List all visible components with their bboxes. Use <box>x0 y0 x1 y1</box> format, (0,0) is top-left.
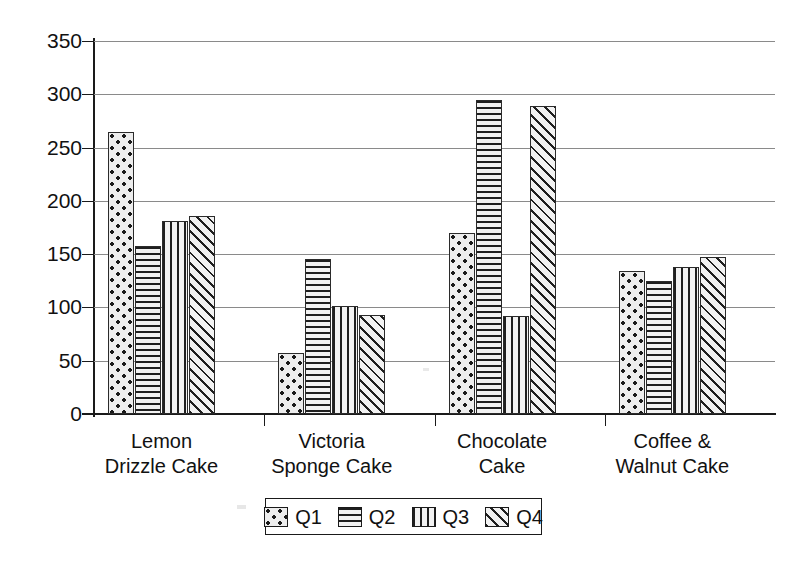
y-axis-tick-label: 250 <box>47 137 82 158</box>
bar <box>278 353 304 414</box>
legend-entry-q1[interactable]: Q1 <box>264 507 322 527</box>
x-axis-category-label-line: Chocolate <box>412 429 592 454</box>
bar <box>359 315 385 414</box>
legend-label: Q2 <box>369 507 396 527</box>
y-axis-tick-mark <box>82 254 94 255</box>
bar <box>189 216 215 414</box>
bar <box>476 100 502 414</box>
x-axis-category-label: Coffee &Walnut Cake <box>582 429 762 479</box>
bar <box>646 281 672 414</box>
x-axis-category-label-line: Cake <box>412 454 592 479</box>
bar <box>332 306 358 414</box>
y-axis-tick-mark <box>82 148 94 149</box>
legend-entry-q3[interactable]: Q3 <box>412 507 470 527</box>
bar <box>700 257 726 414</box>
y-axis-tick-mark <box>82 94 94 95</box>
bar <box>108 132 134 414</box>
legend-swatch-diag-icon <box>485 507 509 527</box>
gridline <box>94 41 775 42</box>
y-axis-tick-mark <box>82 307 94 308</box>
legend-label: Q3 <box>443 507 470 527</box>
y-axis-labels: 350300250200150100500 <box>14 0 82 578</box>
bar <box>619 271 645 414</box>
scan-artifact <box>423 368 429 371</box>
gridline <box>94 201 775 202</box>
y-axis-tick-label: 50 <box>59 350 82 371</box>
x-axis-tick-mark <box>264 415 265 426</box>
x-axis-category-label-line: Victoria <box>242 429 422 454</box>
legend-entry-q4[interactable]: Q4 <box>485 507 543 527</box>
legend-label: Q4 <box>516 507 543 527</box>
legend-swatch-hlines-icon <box>338 507 362 527</box>
x-axis-category-label-line: Lemon <box>72 429 252 454</box>
bar <box>162 221 188 414</box>
y-axis-tick-label: 350 <box>47 30 82 51</box>
bar-chart: 350300250200150100500 LemonDrizzle CakeV… <box>0 0 806 578</box>
scan-artifact <box>237 505 246 509</box>
x-axis-category-label-line: Walnut Cake <box>582 454 762 479</box>
y-axis-tick-label: 0 <box>70 403 82 424</box>
bar <box>530 106 556 414</box>
y-axis-tick-label: 100 <box>47 296 82 317</box>
bar <box>673 267 699 414</box>
y-axis-tick-mark <box>82 201 94 202</box>
bar <box>305 259 331 414</box>
y-axis-tick-label: 150 <box>47 243 82 264</box>
y-axis-tick-mark <box>82 41 94 42</box>
bar <box>449 233 475 414</box>
gridline <box>94 94 775 95</box>
gridline <box>94 148 775 149</box>
legend-swatch-vlines-icon <box>412 507 436 527</box>
y-axis-tick-mark <box>82 361 94 362</box>
y-axis-tick-label: 200 <box>47 190 82 211</box>
legend-entry-q2[interactable]: Q2 <box>338 507 396 527</box>
x-axis-category-label-line: Coffee & <box>582 429 762 454</box>
bar <box>135 246 161 414</box>
x-axis-tick-mark <box>435 415 436 426</box>
x-axis-category-label-line: Drizzle Cake <box>72 454 252 479</box>
bar <box>503 316 529 414</box>
y-axis-tick-mark <box>82 414 94 415</box>
x-axis-tick-mark <box>605 415 606 426</box>
x-axis-category-label: VictoriaSponge Cake <box>242 429 422 479</box>
x-axis-category-label: ChocolateCake <box>412 429 592 479</box>
legend-label: Q1 <box>295 507 322 527</box>
x-axis-category-label: LemonDrizzle Cake <box>72 429 252 479</box>
y-axis-tick-label: 300 <box>47 83 82 104</box>
legend: Q1Q2Q3Q4 <box>265 498 542 535</box>
x-axis-category-label-line: Sponge Cake <box>242 454 422 479</box>
legend-swatch-dots-icon <box>264 507 288 527</box>
plot-area <box>94 41 775 414</box>
